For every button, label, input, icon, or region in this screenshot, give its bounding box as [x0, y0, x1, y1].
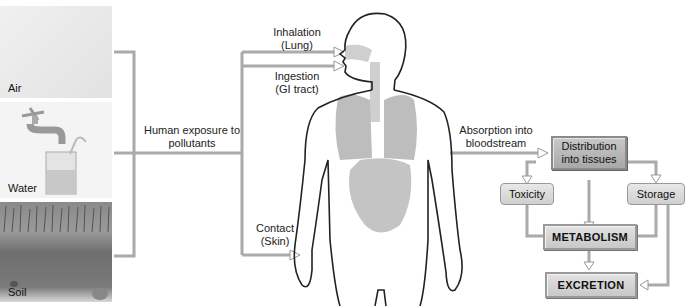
exposure-label: Human exposure to pollutants [144, 124, 240, 150]
metabolism-box: METABOLISM [543, 224, 637, 250]
distribution-box: Distribution into tissues [551, 136, 627, 170]
excretion-box: EXCRETION [545, 272, 637, 298]
ingestion-label: Ingestion (GI tract) [262, 70, 332, 96]
contact-label: Contact (Skin) [250, 222, 300, 248]
absorption-label: Absorption into bloodstream [454, 124, 538, 150]
toxicity-box: Toxicity [500, 183, 554, 205]
inhalation-label: Inhalation (Lung) [262, 26, 332, 52]
storage-box: Storage [627, 183, 685, 205]
